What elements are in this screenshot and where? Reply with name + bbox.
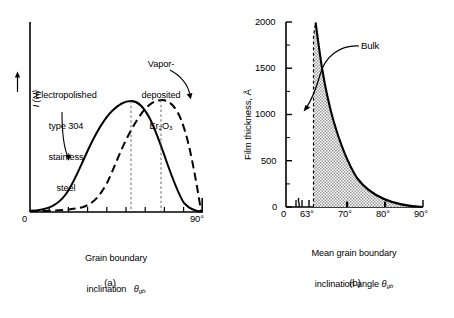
panel-b-x-tick-70: 70°	[338, 209, 352, 219]
annotation-vapor-deposited: Vapor- deposited Er2O3	[130, 38, 192, 155]
panel-b-y-tick-1000: 1000	[255, 109, 275, 119]
panel-b-x-tick-90: 90°	[414, 209, 428, 219]
panel-a-x-axis-label-line-1: Grain boundary	[36, 253, 196, 263]
panel-b-label: (b)	[325, 277, 385, 288]
annotation-electropolished: Electropolished type 304 stainless steel	[30, 69, 102, 215]
annotation-electropolished-line-3: stainless	[30, 152, 102, 162]
panel-b: Film thickness, Å 2000 1500 1000 500 0 0…	[227, 0, 454, 318]
panel-b-y-tick-1500: 1500	[255, 63, 275, 73]
annotation-electropolished-line-2: type 304	[30, 121, 102, 131]
panel-a-y-axis-arrow	[15, 72, 20, 93]
panel-b-axis-break	[296, 198, 302, 207]
panel-a: I (N) Electropolished type 304 stainless…	[0, 0, 227, 318]
panel-a-x-axis-label: Grain boundary inclination θgb	[36, 232, 196, 318]
panel-b-x-axis-label-line-1: Mean grain boundary	[279, 248, 429, 258]
panel-b-x-axis-label: Mean grain boundary inclination angle θg…	[279, 227, 429, 313]
panel-b-arrowhead-bulk	[304, 105, 311, 112]
annotation-vapor-line-2: deposited	[130, 90, 192, 100]
annotation-vapor-formula: Er2O3	[130, 121, 192, 134]
figure-root: I (N) Electropolished type 304 stainless…	[0, 0, 454, 318]
panel-b-y-tick-500: 500	[261, 156, 276, 166]
panel-b-y-axis-label: Film thickness, Å	[243, 89, 253, 160]
panel-b-y-ticks	[286, 22, 292, 207]
panel-a-label: (a)	[80, 277, 140, 288]
annotation-bulk: Bulk	[361, 41, 379, 51]
panel-b-y-tick-0: 0	[272, 202, 277, 212]
panel-b-x-tick-63: 63°	[300, 209, 314, 219]
annotation-electropolished-line-1: Electropolished	[30, 90, 102, 100]
panel-a-x-tick-90: 90°	[190, 214, 204, 224]
panel-b-x-tick-80: 80°	[376, 209, 390, 219]
panel-b-y-tick-2000: 2000	[255, 17, 275, 27]
annotation-electropolished-line-4: steel	[30, 183, 102, 193]
annotation-vapor-line-1: Vapor-	[130, 59, 192, 69]
panel-a-x-tick-0: 0	[22, 214, 27, 224]
panel-b-x-tick-0: 0	[281, 209, 286, 219]
